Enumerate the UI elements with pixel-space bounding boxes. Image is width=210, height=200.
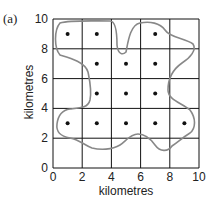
sample-point [95,62,99,66]
sample-point [153,121,157,125]
sample-point [95,92,99,96]
x-tick-label: 2 [79,170,86,184]
y-tick-label: 10 [35,12,49,26]
sample-point [95,121,99,125]
sample-point [153,32,157,36]
y-tick-label: 4 [41,101,48,115]
x-tick-label: 8 [166,170,173,184]
x-tick-label: 6 [137,170,144,184]
y-axis-label: kilometres [22,65,36,120]
region-outline [56,21,195,151]
sample-point [124,62,128,66]
x-tick-label: 10 [192,170,206,184]
x-tick-label: 4 [108,170,115,184]
grid-diagram: 02468100246810kilometreskilometres [0,0,210,200]
y-tick-label: 0 [41,161,48,175]
sample-point [153,92,157,96]
y-tick-label: 2 [41,131,48,145]
sample-point [153,62,157,66]
sample-point [182,121,186,125]
x-tick-label: 0 [50,170,57,184]
sample-point [124,92,128,96]
y-tick-label: 8 [41,42,48,56]
y-tick-label: 6 [41,72,48,86]
x-axis-label: kilometres [99,184,154,198]
sample-point [124,121,128,125]
sample-point [66,121,70,125]
sample-point [66,32,70,36]
sample-point [95,32,99,36]
